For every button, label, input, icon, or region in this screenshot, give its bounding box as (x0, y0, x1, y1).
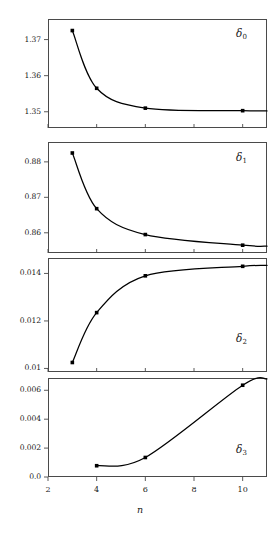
data-point-marker (241, 243, 245, 247)
data-curve (72, 265, 267, 362)
y-tick-label: 1.37 (24, 36, 41, 44)
data-point-marker (95, 464, 99, 468)
y-tick-label: 0.88 (24, 158, 41, 166)
data-point-marker (144, 456, 148, 460)
y-tick-label: 0.87 (24, 193, 41, 201)
plot-area-delta-2 (0, 257, 280, 378)
y-tick-label: 0.014 (20, 269, 41, 277)
x-tick-label: 6 (130, 486, 160, 494)
y-tick-label: 0.002 (20, 444, 41, 452)
data-point-marker (144, 106, 148, 110)
y-tick-label: 0.0 (29, 473, 41, 481)
y-tick-label: 0.012 (20, 317, 41, 325)
data-curve (72, 31, 267, 111)
data-curve (72, 153, 267, 246)
y-tick-label: 1.35 (24, 108, 41, 116)
panel-delta-0: δ0 1.371.361.35 (0, 0, 280, 132)
data-point-marker (71, 361, 75, 365)
x-tick-label: 10 (228, 486, 258, 494)
data-point-marker (241, 109, 245, 113)
y-tick-label: 0.86 (24, 229, 41, 237)
y-tick-label: 0.006 (20, 386, 41, 394)
y-tick-label: 1.36 (24, 72, 41, 80)
data-point-marker (71, 151, 75, 155)
y-tick-label: 0.01 (24, 364, 41, 372)
x-axis-title: n (0, 505, 280, 515)
panel-delta-3: δ3 n 0.0060.0040.0020.0246810 (0, 378, 280, 533)
data-point-marker (95, 311, 99, 315)
x-tick-label: 2 (33, 486, 63, 494)
data-point-marker (241, 383, 245, 387)
data-point-marker (241, 265, 245, 269)
x-tick-label: 4 (82, 486, 112, 494)
x-tick-label: 8 (179, 486, 209, 494)
y-tick-label: 0.004 (20, 415, 41, 423)
data-point-marker (95, 207, 99, 211)
panel-label-delta-3: δ3 (236, 444, 247, 455)
panel-delta-2: δ2 0.0140.0120.01 (0, 257, 280, 378)
multi-panel-figure: δ0 1.371.361.35 δ1 0.880.870.86 δ2 0.014… (0, 0, 280, 533)
data-point-marker (144, 233, 148, 237)
panel-delta-1: δ1 0.880.870.86 (0, 132, 280, 257)
data-point-marker (144, 274, 148, 278)
plot-area-delta-0 (0, 0, 280, 132)
panel-label-delta-2: δ2 (236, 333, 247, 344)
data-point-marker (95, 86, 99, 90)
panel-label-delta-1: δ1 (236, 152, 247, 163)
data-point-marker (71, 29, 75, 33)
panel-label-delta-0: δ0 (236, 28, 247, 39)
